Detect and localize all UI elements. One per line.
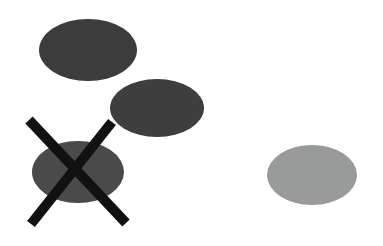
ellipse-middle[interactable] xyxy=(110,79,204,137)
ellipse-right[interactable] xyxy=(267,145,357,205)
ellipse-figure: Four gray ellipses on a white background… xyxy=(0,0,383,246)
figure-canvas xyxy=(0,0,383,246)
ellipse-top-left[interactable] xyxy=(39,19,137,81)
